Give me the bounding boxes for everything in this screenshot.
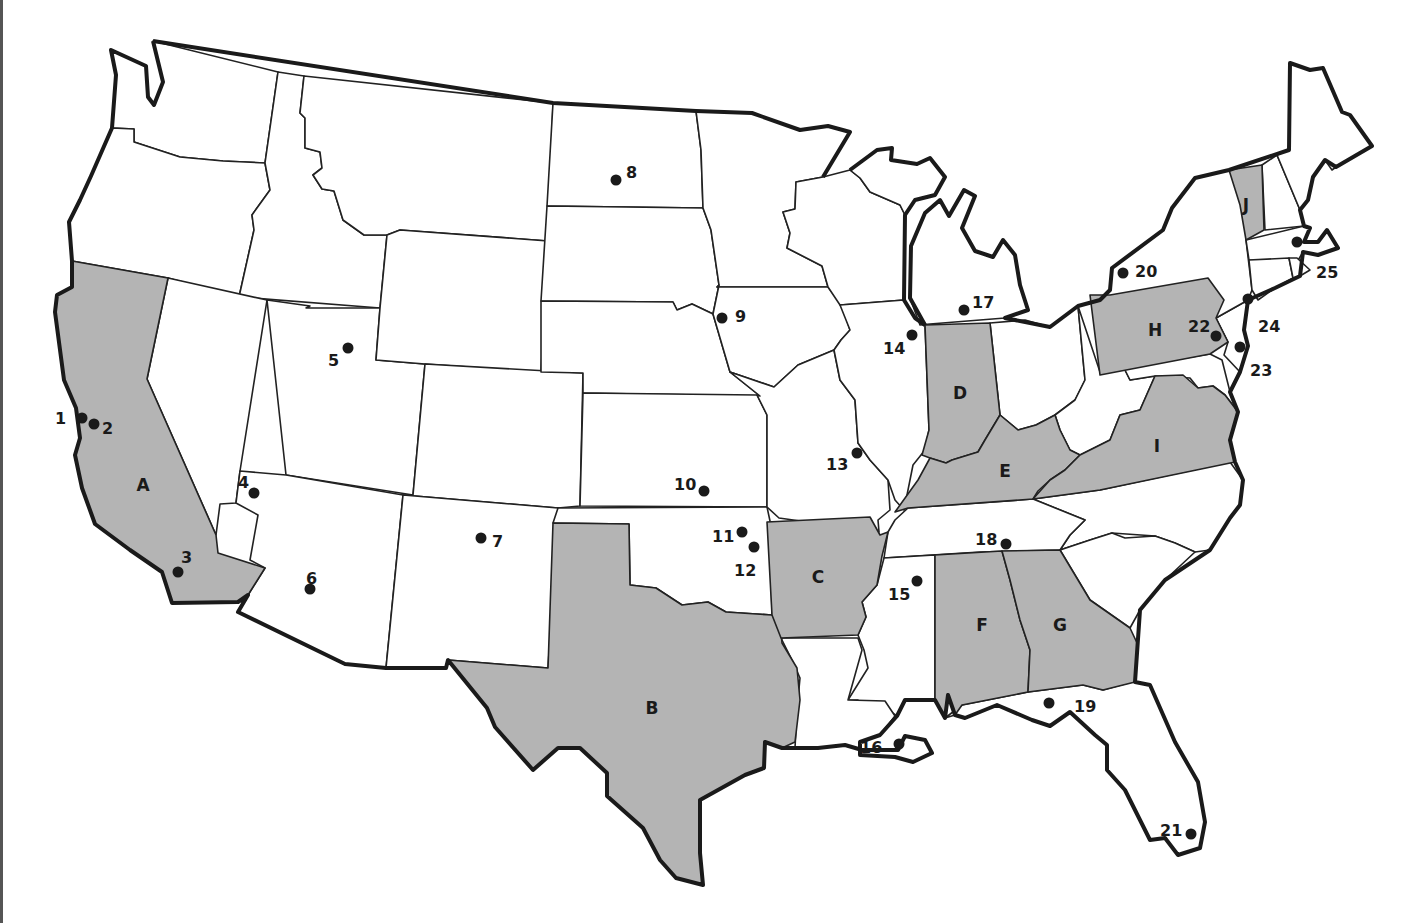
city-dot-13 [852, 448, 863, 459]
city-dot-4 [249, 488, 260, 499]
city-dot-17 [959, 305, 970, 316]
city-dot-21 [1186, 829, 1197, 840]
city-number-20: 20 [1135, 262, 1157, 281]
city-number-2: 2 [102, 419, 113, 438]
city-number-24: 24 [1258, 317, 1280, 336]
city-number-10: 10 [674, 475, 696, 494]
city-number-8: 8 [626, 163, 637, 182]
city-dot-25 [1292, 237, 1303, 248]
city-number-3: 3 [181, 548, 192, 567]
state-letter-h: H [1148, 320, 1162, 340]
city-dot-12 [749, 542, 760, 553]
city-dot-24 [1243, 294, 1254, 305]
city-number-22: 22 [1188, 317, 1210, 336]
city-number-11: 11 [712, 527, 734, 546]
state-letter-d: D [953, 383, 967, 403]
state-connecticut [1249, 258, 1293, 300]
city-dot-1 [77, 413, 88, 424]
city-dot-15 [912, 576, 923, 587]
city-number-15: 15 [888, 585, 910, 604]
state-letter-b: B [646, 698, 659, 718]
city-dot-16 [894, 739, 905, 750]
city-dot-8 [611, 175, 622, 186]
city-dot-18 [1001, 539, 1012, 550]
city-number-9: 9 [735, 307, 746, 326]
state-letter-c: C [812, 567, 824, 587]
state-letter-e: E [999, 461, 1011, 481]
city-number-1: 1 [55, 409, 66, 428]
city-number-18: 18 [975, 530, 997, 549]
state-letter-f: F [976, 615, 988, 635]
state-wyoming [376, 230, 548, 372]
state-south-dakota [541, 206, 719, 314]
city-dot-11 [737, 527, 748, 538]
city-dot-14 [907, 330, 918, 341]
state-letter-a: A [136, 475, 150, 495]
city-number-7: 7 [492, 532, 503, 551]
city-number-23: 23 [1250, 361, 1272, 380]
city-dot-23 [1235, 342, 1246, 353]
state-letter-g: G [1053, 615, 1067, 635]
city-dot-9 [717, 313, 728, 324]
state-letter-j: J [1242, 195, 1249, 215]
state-north-dakota [547, 103, 703, 208]
city-number-25: 25 [1316, 263, 1338, 282]
state-new-mexico [386, 495, 558, 668]
state-letter-i: I [1154, 436, 1160, 456]
city-dot-2 [89, 419, 100, 430]
city-number-12: 12 [734, 561, 756, 580]
city-dot-10 [699, 486, 710, 497]
city-number-13: 13 [826, 455, 848, 474]
city-number-5: 5 [328, 351, 339, 370]
state-colorado [403, 364, 583, 508]
us-outline-map: ABCDEFGHIJ 12345678910111213141516171819… [0, 0, 1417, 923]
city-number-21: 21 [1160, 821, 1182, 840]
city-number-17: 17 [972, 293, 994, 312]
city-number-19: 19 [1074, 697, 1096, 716]
city-dot-5 [343, 343, 354, 354]
city-number-4: 4 [238, 473, 249, 492]
city-dot-20 [1118, 268, 1129, 279]
city-dot-19 [1044, 698, 1055, 709]
city-dot-22 [1211, 331, 1222, 342]
city-number-16: 16 [860, 738, 882, 757]
city-dot-3 [173, 567, 184, 578]
city-dot-7 [476, 533, 487, 544]
city-number-14: 14 [883, 339, 905, 358]
city-number-6: 6 [306, 569, 317, 588]
